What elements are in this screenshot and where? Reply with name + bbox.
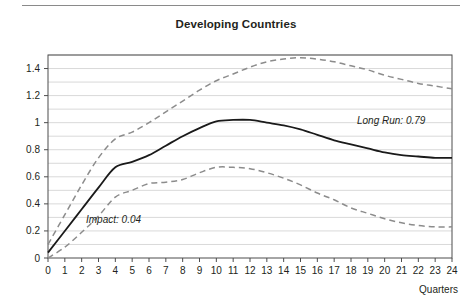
chart-plot-area: 00.20.40.60.811.21.4 0123456789101112131… <box>0 0 472 303</box>
svg-text:7: 7 <box>163 265 169 276</box>
svg-text:18: 18 <box>345 265 357 276</box>
chart-svg: 00.20.40.60.811.21.4 0123456789101112131… <box>0 0 472 303</box>
svg-text:14: 14 <box>278 265 290 276</box>
svg-text:8: 8 <box>180 265 186 276</box>
svg-text:0.6: 0.6 <box>26 171 40 182</box>
data-series <box>48 58 452 258</box>
svg-text:1: 1 <box>62 265 68 276</box>
annotation-impact: Impact: 0.04 <box>86 214 141 225</box>
svg-text:0: 0 <box>45 265 51 276</box>
svg-text:9: 9 <box>197 265 203 276</box>
x-axis-title: Quarters <box>419 284 458 295</box>
svg-text:24: 24 <box>446 265 458 276</box>
svg-text:3: 3 <box>96 265 102 276</box>
svg-text:19: 19 <box>362 265 374 276</box>
y-axis-ticks: 00.20.40.60.811.21.4 <box>26 63 48 263</box>
svg-text:11: 11 <box>228 265 239 276</box>
x-axis-ticks: 0123456789101112131415161718192021222324 <box>45 258 458 276</box>
svg-text:16: 16 <box>312 265 324 276</box>
svg-text:5: 5 <box>129 265 135 276</box>
plot-frame <box>48 55 452 258</box>
svg-text:1: 1 <box>34 117 40 128</box>
svg-text:0.8: 0.8 <box>26 144 40 155</box>
svg-text:10: 10 <box>211 265 223 276</box>
svg-text:4: 4 <box>113 265 119 276</box>
svg-text:13: 13 <box>261 265 273 276</box>
svg-text:15: 15 <box>295 265 307 276</box>
svg-text:20: 20 <box>379 265 391 276</box>
svg-text:12: 12 <box>244 265 256 276</box>
svg-text:23: 23 <box>430 265 442 276</box>
svg-text:2: 2 <box>79 265 85 276</box>
annotation-long-run: Long Run: 0.79 <box>357 115 425 126</box>
svg-text:21: 21 <box>396 265 408 276</box>
svg-text:6: 6 <box>146 265 152 276</box>
svg-text:1.2: 1.2 <box>26 90 40 101</box>
svg-text:0: 0 <box>34 253 40 264</box>
svg-text:1.4: 1.4 <box>26 63 40 74</box>
svg-text:22: 22 <box>413 265 425 276</box>
svg-text:0.4: 0.4 <box>26 198 40 209</box>
svg-text:0.2: 0.2 <box>26 225 40 236</box>
svg-text:17: 17 <box>329 265 341 276</box>
